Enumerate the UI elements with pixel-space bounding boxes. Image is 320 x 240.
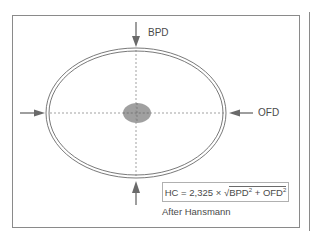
formula-radicand: BPD2 + OFD2 — [229, 186, 286, 198]
attribution-text: After Hansmann — [162, 206, 231, 217]
formula-times: × — [216, 187, 222, 198]
ofd-label: OFD — [258, 107, 279, 118]
formula-term1: BPD — [229, 187, 249, 198]
formula-plus: + — [255, 187, 261, 198]
formula-lhs: HC — [165, 187, 179, 198]
bpd-label: BPD — [148, 27, 169, 38]
arrow-right-icon — [20, 110, 45, 117]
formula-exp2: 2 — [283, 187, 286, 193]
formula-box: HC = 2,325 × √BPD2 + OFD2 — [162, 182, 289, 202]
formula-term2: OFD — [263, 187, 283, 198]
formula-coefficient: 2,325 — [189, 187, 213, 198]
arrow-up-icon — [132, 181, 140, 205]
arrow-down-icon — [132, 22, 140, 47]
formula-equals: = — [181, 187, 187, 198]
arrow-left-icon — [229, 110, 253, 117]
formula-exp1: 2 — [249, 187, 252, 193]
